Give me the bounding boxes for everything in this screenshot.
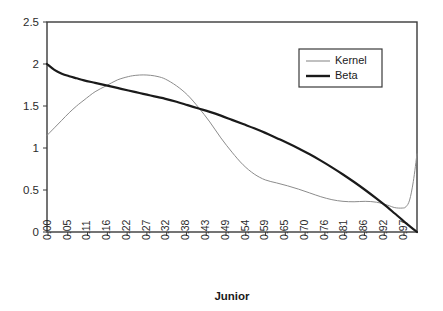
y-tick-label: 0 <box>33 226 39 238</box>
x-tick-label: 0.16 <box>100 219 112 240</box>
line-chart: 2.521.510.50 0.000.050.110.160.220.270.3… <box>0 0 443 311</box>
x-tick-label: 0.65 <box>278 219 290 240</box>
series-line-beta <box>47 64 417 232</box>
x-tick-label: 0.97 <box>397 219 409 240</box>
x-tick-label: 0.27 <box>140 219 152 240</box>
y-tick-label: 0.5 <box>23 184 39 196</box>
data-series-group <box>47 64 417 232</box>
x-tick-label: 0.49 <box>219 219 231 240</box>
x-tick-label: 0.81 <box>337 219 349 240</box>
legend-label-beta: Beta <box>335 69 359 81</box>
x-tick-label: 0.38 <box>179 219 191 240</box>
x-axis-title: Junior <box>214 290 250 302</box>
y-axis-tick-labels: 2.521.510.50 <box>23 16 39 238</box>
x-tick-label: 0.00 <box>41 219 53 240</box>
x-tick-label: 0.59 <box>258 219 270 240</box>
x-tick-label: 0.92 <box>377 219 389 240</box>
chart-container: 2.521.510.50 0.000.050.110.160.220.270.3… <box>0 0 443 311</box>
y-tick-label: 1.5 <box>23 100 39 112</box>
y-tick-label: 2.5 <box>23 16 39 28</box>
x-tick-label: 0.11 <box>80 220 92 240</box>
x-tick-label: 0.43 <box>199 219 211 240</box>
x-tick-label: 0.86 <box>357 219 369 240</box>
x-tick-label: 0.05 <box>61 219 73 240</box>
legend-label-kernel: Kernel <box>335 54 367 66</box>
y-tick-label: 1 <box>33 142 39 154</box>
legend: Kernel Beta <box>299 49 382 87</box>
x-tick-label: 0.76 <box>318 219 330 240</box>
x-tick-label: 0.54 <box>239 219 251 240</box>
x-tick-label: 0.32 <box>159 219 171 240</box>
y-tick-label: 2 <box>33 58 39 70</box>
x-axis-tick-labels: 0.000.050.110.160.220.270.320.380.430.49… <box>41 219 409 240</box>
x-tick-label: 0.22 <box>120 219 132 240</box>
x-tick-label: 0.70 <box>298 219 310 240</box>
